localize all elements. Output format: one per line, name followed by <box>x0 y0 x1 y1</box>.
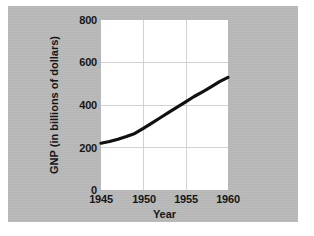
x-tick-1945: 1945 <box>81 194 121 205</box>
x-tick-1950: 1950 <box>124 194 164 205</box>
x-axis-title: Year <box>101 208 228 220</box>
y-tick-200: 200 <box>59 143 97 154</box>
y-tick-600: 600 <box>59 57 97 68</box>
y-tick-400: 400 <box>59 100 97 111</box>
y-tick-800: 800 <box>59 15 97 26</box>
x-tick-1960: 1960 <box>208 194 248 205</box>
plot-area <box>101 20 228 190</box>
gnp-line-series <box>101 20 228 190</box>
x-tick-1955: 1955 <box>166 194 206 205</box>
figure-canvas: GNP (in billions of dollars) 800 600 400… <box>0 0 314 236</box>
